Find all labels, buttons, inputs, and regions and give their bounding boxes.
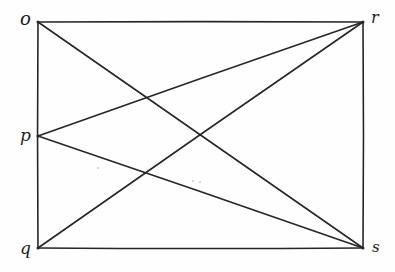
vertex-point-p — [37, 135, 40, 138]
vertex-label-p: p — [20, 127, 31, 144]
vertex-label-o: o — [20, 10, 31, 28]
vertex-point-q — [37, 247, 40, 250]
vertex-label-s: s — [372, 240, 380, 255]
vertex-label-q: q — [20, 240, 31, 257]
paper-speck — [199, 181, 201, 183]
figure-canvas: o r p q s — [0, 0, 395, 272]
edge-p-r — [38, 22, 363, 136]
edge-layer — [38, 22, 364, 249]
edge-p-s — [38, 136, 363, 248]
vertex-point-s — [362, 247, 365, 250]
edge-s-q — [38, 248, 363, 249]
vertex-point-o — [37, 21, 40, 24]
vertex-label-r: r — [371, 10, 379, 26]
diagram-svg — [0, 0, 395, 272]
vertex-point-r — [362, 21, 365, 24]
paper-speck — [192, 180, 194, 182]
paper-speck — [97, 167, 99, 169]
